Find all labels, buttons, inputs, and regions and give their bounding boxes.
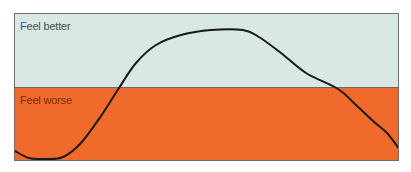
mood-chart: Feel better Feel worse <box>14 13 399 161</box>
mood-curve <box>15 14 399 161</box>
